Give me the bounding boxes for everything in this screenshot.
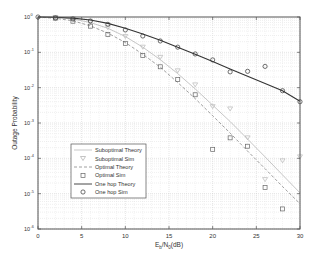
svg-text:Suboptimal Theory: Suboptimal Theory [95, 147, 142, 153]
x-tick-label: 25 [253, 233, 260, 239]
y-tick-label: 10 [24, 14, 30, 20]
y-tick-exponent: -5 [31, 190, 34, 194]
svg-text:One hop Sim: One hop Sim [95, 189, 128, 195]
y-tick-exponent: -2 [31, 84, 34, 88]
y-tick-labels: 10010-110-210-310-410-510-6 [24, 13, 34, 232]
y-tick-exponent: 0 [31, 13, 33, 17]
svg-text:Optimal Sim: Optimal Sim [95, 172, 126, 178]
y-tick-exponent: -1 [31, 48, 34, 52]
x-tick-label: 0 [36, 233, 40, 239]
svg-text:Optimal Theory: Optimal Theory [95, 164, 133, 170]
svg-text:One hop Theory: One hop Theory [95, 181, 136, 187]
x-tick-label: 15 [166, 233, 173, 239]
y-tick-label: 10 [24, 120, 30, 126]
outage-probability-chart: 10010-110-210-310-410-510-6 051015202530… [0, 0, 317, 257]
y-tick-exponent: -6 [31, 225, 34, 229]
x-tick-label: 20 [209, 233, 216, 239]
x-tick-label: 10 [122, 233, 129, 239]
y-tick-label: 10 [24, 49, 30, 55]
x-tick-label: 30 [297, 233, 304, 239]
y-tick-label: 10 [24, 226, 30, 232]
y-tick-label: 10 [24, 191, 30, 197]
y-tick-exponent: -4 [31, 154, 34, 158]
x-tick-labels: 051015202530 [36, 233, 304, 239]
x-axis-label: Eb/N0(dB) [155, 241, 183, 250]
y-tick-label: 10 [24, 155, 30, 161]
y-tick-exponent: -3 [31, 119, 34, 123]
y-tick-label: 10 [24, 85, 30, 91]
plot-svg: 10010-110-210-310-410-510-6 051015202530… [0, 0, 317, 257]
y-axis-label: Outage Probability [11, 96, 19, 150]
legend: Suboptimal Theory Suboptimal Sim Optimal… [71, 144, 146, 198]
x-tick-label: 5 [80, 233, 84, 239]
svg-text:Suboptimal Sim: Suboptimal Sim [95, 156, 135, 162]
